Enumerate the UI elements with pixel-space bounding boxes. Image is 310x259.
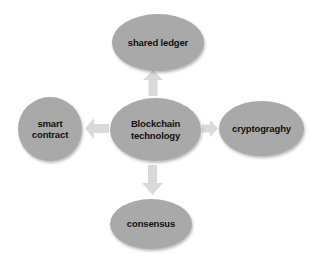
node-blockchain-technology-label: Blockchain technology	[127, 118, 184, 140]
node-smart-contract-label: smart contract	[28, 118, 72, 140]
node-consensus: consensus	[110, 199, 192, 249]
node-shared-ledger-label: shared ledger	[124, 37, 192, 48]
node-cryptography: cryptograghy	[219, 101, 304, 156]
blockchain-concept-diagram: shared ledger Blockchain technology smar…	[0, 0, 310, 259]
arrow-right-icon	[202, 120, 218, 137]
node-blockchain-technology: Blockchain technology	[110, 98, 201, 161]
arrow-left-icon	[85, 118, 109, 139]
node-consensus-label: consensus	[123, 218, 179, 229]
node-shared-ledger: shared ledger	[112, 14, 204, 71]
node-smart-contract: smart contract	[18, 97, 82, 161]
arrow-down-icon	[142, 165, 163, 195]
arrow-up-icon	[143, 70, 163, 96]
node-cryptography-label: cryptograghy	[228, 123, 295, 134]
